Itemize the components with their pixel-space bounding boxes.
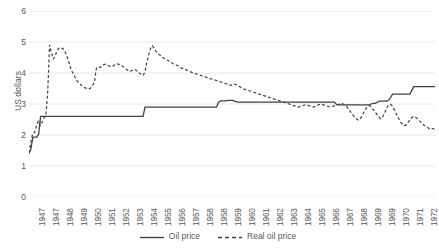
x-axis-tick-label: 1967	[347, 208, 355, 226]
x-axis-tick-label: 1950	[95, 208, 103, 226]
x-axis-tick-label: 1949	[81, 208, 89, 226]
series-line-real-oil-price	[29, 45, 435, 153]
y-axis-tick-2: 2	[14, 131, 26, 140]
x-axis-tick-label: 1955	[165, 208, 173, 226]
x-axis-tick-label: 1970	[403, 208, 411, 226]
y-axis-tick-5: 5	[14, 38, 26, 47]
x-axis-tick-label: 1971	[417, 208, 425, 226]
x-axis-tick-label: 1957	[193, 208, 201, 226]
chart-svg	[29, 11, 435, 197]
legend-label: Oil price	[169, 231, 200, 241]
x-axis-tick-label: 1966	[333, 208, 341, 226]
x-axis-tick-label: 1965	[319, 208, 327, 226]
x-axis-tick-label: 1961	[263, 208, 271, 226]
x-axis-tick-label: 1958	[207, 208, 215, 226]
y-axis-tick-3: 3	[14, 100, 26, 109]
solid-line-icon	[140, 233, 164, 240]
x-axis-tick-label: 1951	[109, 208, 117, 226]
x-axis-tick-label: 1969	[389, 208, 397, 226]
x-axis-tick-label: 1958	[221, 208, 229, 226]
y-axis-tick-6: 6	[14, 7, 26, 16]
y-axis-tick-1: 1	[14, 162, 26, 171]
x-axis-tick-label: 1952	[123, 208, 131, 226]
y-axis-title: US dollars	[13, 51, 23, 131]
y-axis-tick-4: 4	[14, 69, 26, 78]
x-axis-tick-label: 1947	[39, 208, 47, 226]
series-line-oil-price	[29, 87, 435, 154]
x-axis-tick-label: 1947	[53, 208, 61, 226]
y-axis-tick-0: 0	[14, 193, 26, 202]
x-axis-tick-label: 1969	[375, 208, 383, 226]
x-axis-tick-label: 1954	[151, 208, 159, 226]
x-axis-tick-label: 1964	[305, 208, 313, 226]
x-axis-tick-label: 1953	[137, 208, 145, 226]
x-axis-tick-label: 1962	[277, 208, 285, 226]
x-axis-tick-label: 1960	[249, 208, 257, 226]
plot-area	[29, 11, 435, 197]
x-axis-tick-label: 1972	[431, 208, 439, 226]
legend-item-real-oil-price[interactable]: Real oil price	[218, 231, 296, 241]
x-axis-tick-label: 1948	[67, 208, 75, 226]
legend-label: Real oil price	[247, 231, 296, 241]
chart-legend: Oil priceReal oil price	[0, 231, 436, 241]
x-axis-tick-label: 1968	[361, 208, 369, 226]
x-axis-tick-labels: 1947194719481949195019511952195319541955…	[29, 199, 435, 229]
x-axis-tick-label: 1963	[291, 208, 299, 226]
x-axis-tick-label: 1956	[179, 208, 187, 226]
dashed-line-icon	[218, 233, 242, 240]
x-axis-tick-label: 1959	[235, 208, 243, 226]
legend-item-oil-price[interactable]: Oil price	[140, 231, 200, 241]
